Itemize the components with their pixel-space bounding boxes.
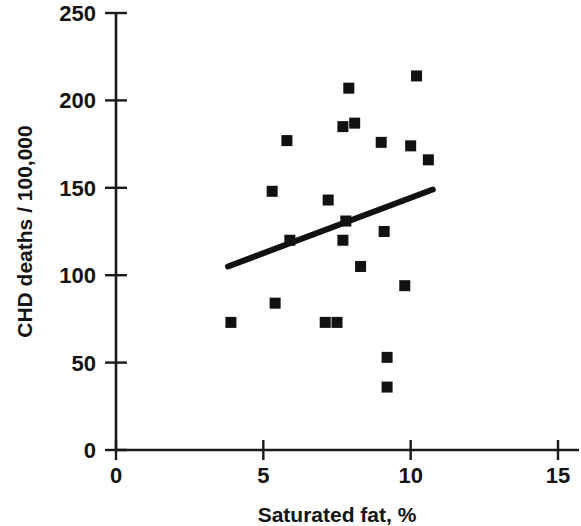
x-axis-tick-label: 10 [398, 463, 422, 488]
y-axis-tick-label: 50 [72, 351, 96, 376]
y-axis-tick-label: 0 [84, 438, 96, 463]
y-axis-tick-label: 150 [59, 176, 96, 201]
data-point-marker [225, 317, 236, 328]
data-point-marker [405, 140, 416, 151]
data-point-marker [337, 121, 348, 132]
data-point-marker [411, 70, 422, 81]
data-point-marker [355, 261, 366, 272]
x-axis: 051015 [110, 440, 579, 488]
y-axis: 050100150200250 [59, 1, 127, 463]
data-point-marker [267, 186, 278, 197]
x-axis-tick-label: 15 [546, 463, 570, 488]
x-axis-title: Saturated fat, % [258, 503, 417, 526]
data-point-marker [382, 382, 393, 393]
y-axis-title: CHD deaths / 100,000 [13, 125, 36, 337]
data-points-layer [225, 70, 433, 392]
chart-figure: 050100150200250 051015 CHD deaths / 100,… [0, 0, 581, 526]
data-point-marker [399, 280, 410, 291]
data-point-marker [379, 226, 390, 237]
data-point-marker [332, 317, 343, 328]
data-point-marker [423, 154, 434, 165]
data-point-marker [320, 317, 331, 328]
data-point-marker [343, 83, 354, 94]
data-point-marker [349, 118, 360, 129]
data-point-marker [382, 352, 393, 363]
data-point-marker [281, 135, 292, 146]
data-point-marker [323, 195, 334, 206]
data-point-marker [270, 298, 281, 309]
y-axis-tick-label: 100 [59, 263, 96, 288]
y-axis-tick-label: 250 [59, 1, 96, 26]
x-axis-tick-label: 0 [110, 463, 122, 488]
y-axis-tick-label: 200 [59, 88, 96, 113]
scatter-plot: 050100150200250 051015 CHD deaths / 100,… [0, 0, 581, 526]
x-axis-tick-label: 5 [257, 463, 269, 488]
data-point-marker [337, 235, 348, 246]
data-point-marker [376, 137, 387, 148]
